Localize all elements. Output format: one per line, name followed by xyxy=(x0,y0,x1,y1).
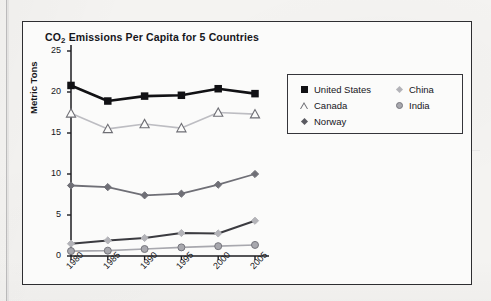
data-point-marker xyxy=(178,244,185,251)
chart-figure: CO2 Emissions Per Capita for 5 Countries… xyxy=(22,21,472,285)
data-point-marker xyxy=(141,92,149,100)
data-point-marker xyxy=(252,241,259,248)
data-point-marker xyxy=(251,217,258,224)
legend-item-label: China xyxy=(409,84,434,95)
data-point-marker xyxy=(251,90,259,98)
data-point-marker xyxy=(178,229,185,236)
data-point-marker xyxy=(67,82,75,90)
data-point-marker xyxy=(214,85,222,93)
page-gutter-shadow xyxy=(7,0,9,301)
legend-item: United States xyxy=(297,81,371,97)
data-point-marker xyxy=(215,243,222,250)
data-point-marker xyxy=(104,237,111,244)
filled-square-marker xyxy=(297,86,311,93)
data-point-marker xyxy=(251,170,258,177)
gray-circle-marker xyxy=(392,102,406,109)
chart-legend: United StatesCanadaNorway ChinaIndia xyxy=(287,74,463,134)
data-point-marker xyxy=(68,248,75,255)
data-point-marker xyxy=(104,184,111,191)
data-point-marker xyxy=(215,230,222,237)
legend-item-label: United States xyxy=(314,84,371,95)
open-triangle-marker xyxy=(297,102,311,109)
data-point-marker xyxy=(178,190,185,197)
plot-canvas xyxy=(23,22,473,286)
data-point-marker xyxy=(67,182,74,189)
legend-item: China xyxy=(392,81,434,97)
legend-item: Canada xyxy=(297,97,371,113)
legend-item: Norway xyxy=(297,113,371,129)
data-point-marker xyxy=(141,192,148,199)
light-diamond-marker xyxy=(392,87,406,92)
data-point-marker xyxy=(104,247,111,254)
legend-item: India xyxy=(392,97,434,113)
dark-diamond-marker xyxy=(297,119,311,124)
legend-item-label: Canada xyxy=(314,100,347,111)
legend-item-label: India xyxy=(409,100,430,111)
data-point-marker xyxy=(141,246,148,253)
data-point-marker xyxy=(67,240,74,247)
legend-item-label: Norway xyxy=(314,116,346,127)
legend-column-right: ChinaIndia xyxy=(392,81,434,113)
data-point-marker xyxy=(141,234,148,241)
data-point-marker xyxy=(66,109,75,117)
data-point-marker xyxy=(178,92,186,100)
scanned-page: CO2 Emissions Per Capita for 5 Countries… xyxy=(0,0,491,301)
legend-column-left: United StatesCanadaNorway xyxy=(297,81,371,129)
data-point-marker xyxy=(104,97,112,105)
data-point-marker xyxy=(215,181,222,188)
